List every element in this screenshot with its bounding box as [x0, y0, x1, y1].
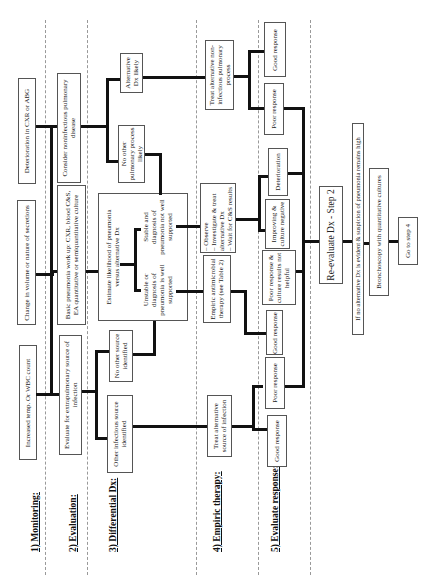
step-label-evaluation: 2) Evaluation:: [68, 494, 78, 552]
connector: [252, 385, 263, 388]
connector: [95, 350, 98, 440]
node-other-infectious-source: Other infectious source identified: [107, 395, 133, 473]
connector: [302, 107, 305, 388]
connector: [252, 385, 255, 430]
connector: [258, 175, 268, 178]
node-bronchoscopy: Bronchoscopy with quantitative cultures: [369, 168, 389, 296]
step-separator: [196, 20, 197, 575]
connector: [95, 350, 109, 353]
node-change-secretions: Change in volume or nature of secretions: [17, 200, 36, 325]
connector: [145, 153, 161, 156]
connector: [176, 290, 206, 293]
connector: [244, 290, 247, 333]
step-label-monitoring: 1) Monitoring:: [30, 492, 40, 552]
connector: [153, 320, 156, 355]
step-separator: [310, 20, 311, 575]
connector: [244, 332, 266, 335]
connector: [232, 425, 254, 428]
node-poor-response-cultures: Poor response & culture results not help…: [262, 250, 296, 305]
node-good-response-2: Good response: [266, 310, 283, 355]
connector: [159, 153, 162, 195]
connector: [134, 228, 137, 292]
connector: [236, 218, 260, 221]
connector: [143, 76, 206, 79]
node-if-no-alternative: If no alternative Dx is evident & suspic…: [352, 123, 364, 335]
connector: [50, 125, 53, 396]
node-increased-temp: Increased temp. Or WBC count: [19, 345, 37, 460]
connector: [50, 125, 57, 128]
node-no-other-pulmonary: No other pulmonary process likely: [118, 125, 145, 183]
step-separator: [258, 20, 259, 575]
node-reevaluate-dx: Re-evaluate Dx - Step 2: [319, 186, 343, 284]
node-go-to-step-4: Go to step 4: [398, 217, 418, 265]
connector: [95, 437, 107, 440]
node-unstable-supported: Unstable or diagnosis of pneumonia is we…: [140, 262, 176, 318]
node-poor-response-2: Poor response: [264, 83, 284, 135]
connector: [50, 393, 59, 396]
node-poor-response-1: Poor response: [265, 357, 285, 409]
connector: [176, 225, 202, 228]
connector: [133, 425, 208, 428]
node-treat-alternative-infection: Treat alternative source of infection: [207, 395, 232, 457]
connector: [284, 107, 304, 110]
node-good-response-1: Good response: [267, 415, 287, 467]
node-improving-culture-negative: Improving & culture negative: [265, 199, 290, 249]
connector: [258, 175, 261, 231]
step-label-empiric-therapy: 4) Empiric therapy:: [212, 471, 222, 552]
connector: [248, 50, 264, 53]
step-label-evaluate-response: 5) Evaluate response:: [270, 465, 280, 552]
step-label-differential-dx: 3) Differential Dx:: [108, 478, 118, 552]
node-evaluate-extrapulmonary: Evaluate for extrapulmonary source of in…: [59, 335, 82, 455]
node-alternative-dx-likely: Alternative Dx likely: [120, 53, 143, 93]
node-good-response-3: Good response: [264, 22, 286, 77]
node-deterioration: Deterioration: [268, 148, 288, 196]
step-separator: [87, 20, 88, 575]
step-separator: [45, 20, 46, 575]
node-noninfectious-disease: Consider noninfectious pulmonary disease: [57, 73, 81, 183]
connector: [106, 78, 109, 163]
node-basic-workup: Basic pneumonia work up: CXR, blood C&S,…: [57, 185, 86, 325]
connector: [133, 353, 156, 356]
connector: [248, 107, 264, 110]
connector: [50, 270, 57, 273]
node-no-other-source: No other source identified: [109, 330, 133, 382]
connector: [252, 428, 267, 431]
node-empiric-therapy: Empiric antimicrobial therapy (see Table…: [203, 255, 231, 323]
connector: [81, 125, 108, 128]
node-deterioration-cxr: Deterioration in CXR or ABG: [18, 78, 36, 184]
connector: [248, 50, 251, 110]
node-stable-not-supported: Stable and diagnosis of pneumonia not we…: [140, 198, 176, 256]
node-treat-noninfectious: Treat alternative non-infectious pulmona…: [205, 40, 234, 110]
node-observe-investigate: – Observe – Investigate & treat alternat…: [200, 183, 236, 253]
connector: [302, 240, 320, 243]
